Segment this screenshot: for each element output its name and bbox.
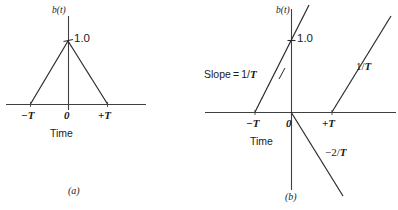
panel-b-positive-slope-text: 1/ <box>356 60 365 72</box>
panel-b-x-axis-label: Time <box>250 136 273 147</box>
panel-a-x-axis-label: Time <box>50 128 73 139</box>
panel-b-positive-slope-var: T <box>365 60 372 72</box>
panel-b-ramp-rising-first <box>255 5 309 112</box>
panel-b-xtick-minus-t: −T <box>246 118 259 129</box>
panel-b-positive-slope-label: 1/T <box>356 61 371 72</box>
panel-a-rising-edge <box>31 41 69 104</box>
panel-a-xtick-plus-t: +T <box>98 110 111 121</box>
panel-a-xtick-minus-t: −T <box>21 110 34 121</box>
panel-a-graphics <box>6 16 146 110</box>
panel-b-slope-annotation: Slope = 1/T <box>204 69 257 80</box>
panel-b-negative-slope-text: −2/ <box>325 146 340 158</box>
panel-b-caption: (b) <box>285 192 297 202</box>
panel-b-peak-value-label: 1.0 <box>297 33 313 45</box>
panel-b-xtick-plus-t: +T <box>322 118 335 129</box>
panel-b-negative-slope-var: T <box>340 146 347 158</box>
panel-a-peak-value-label: 1.0 <box>74 33 90 45</box>
panel-b-negative-slope-label: −2/T <box>325 147 347 158</box>
panel-b-y-axis-label: b(t) <box>276 6 290 16</box>
panel-b-xtick-zero: 0 <box>286 118 292 129</box>
panel-a-y-axis-label: b(t) <box>52 6 66 16</box>
figure-drawing <box>0 0 398 210</box>
panel-a-falling-edge <box>68 41 108 104</box>
figure-container: b(t) 1.0 −T 0 +T Time (a) b(t) 1.0 Slope… <box>0 0 398 210</box>
panel-b-slope-annotation-var: T <box>250 68 257 80</box>
panel-a-caption: (a) <box>68 186 80 196</box>
panel-a-xtick-zero: 0 <box>64 110 70 121</box>
panel-b-slope-leader <box>279 68 285 79</box>
panel-b-slope-annotation-text: Slope = 1/ <box>204 68 250 80</box>
